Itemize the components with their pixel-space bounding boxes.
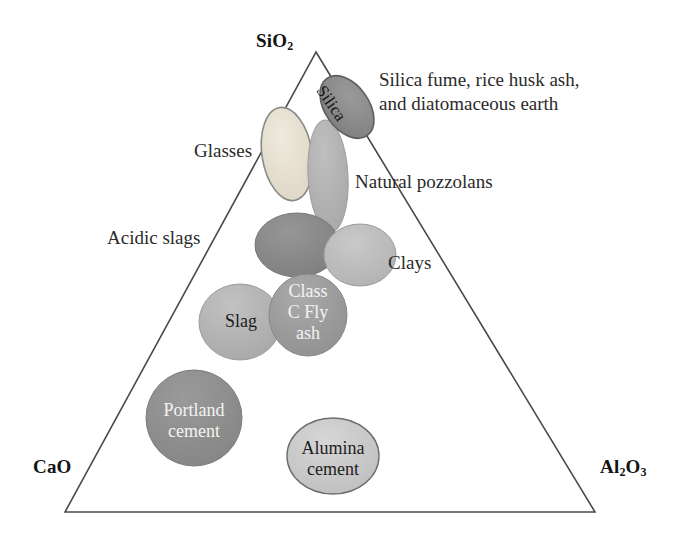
vertex-label-al2o3: Al2O3: [600, 456, 647, 480]
region-blobs: [146, 66, 396, 494]
annotation-line-2: and diatomaceous earth: [379, 92, 580, 116]
annotation-silica-fume-note: Silica fume, rice husk ash, and diatomac…: [379, 68, 580, 117]
annotation-glasses: Glasses: [194, 139, 252, 163]
region-clays-blob: [324, 224, 396, 286]
region-portland-cement-blob: [146, 370, 242, 466]
vertex-label-cao: CaO: [33, 456, 72, 478]
annotation-line-1: Silica fume, rice husk ash,: [379, 68, 580, 92]
annotation-acidic-slags: Acidic slags: [107, 226, 200, 250]
region-alumina-cement-blob: [287, 418, 379, 494]
region-class-c-fly-ash-blob: [269, 274, 347, 356]
vertex-label-sio2: SiO2: [256, 30, 293, 54]
annotation-natural-pozzolans: Natural pozzolans: [355, 170, 493, 194]
annotation-clays: Clays: [388, 251, 431, 275]
region-slag-blob: [199, 284, 281, 360]
